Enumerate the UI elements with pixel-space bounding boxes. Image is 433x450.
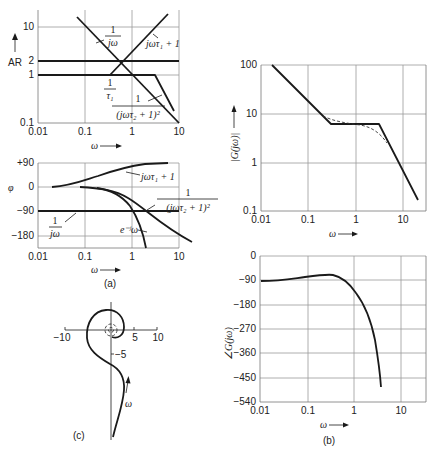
y-tick: −5 <box>115 349 127 360</box>
y-tick: +90 <box>17 157 34 168</box>
chart-c-nyquist: −10 5 10 −5 ω (c) <box>54 302 164 441</box>
label-second-order: (jωτ₂ + 1)² <box>166 202 210 214</box>
nyquist-curve <box>87 310 124 437</box>
x-tick: 0.1 <box>78 251 92 262</box>
y-axis-label: ∠G(jω) <box>223 327 235 360</box>
x-tick: 1 <box>351 405 357 416</box>
exact-magnitude-curve <box>323 116 387 143</box>
svg-text:1: 1 <box>108 77 113 88</box>
y-axis-label: φ <box>8 182 14 193</box>
x-tick: 0.01 <box>250 405 270 416</box>
arrow-up-icon <box>232 105 237 112</box>
arrow-up-icon <box>126 376 131 384</box>
x-tick: 10 <box>395 405 407 416</box>
y-tick: 1 <box>28 69 34 80</box>
svg-text:1: 1 <box>136 93 141 104</box>
x-tick: 1 <box>353 214 359 225</box>
label-jwt1-plus-1: jωτ₁ + 1 <box>139 171 175 182</box>
y-tick: 10 <box>23 21 35 32</box>
x-tick: −10 <box>54 332 71 343</box>
y-tick: 1 <box>251 157 257 168</box>
arrow-right-icon <box>115 268 121 273</box>
y-tick: −180 <box>11 230 34 241</box>
label-1-over-jw: jω <box>48 228 60 239</box>
label-1-over-jw: jω <box>106 37 118 48</box>
panel-label-a: (a) <box>104 278 116 289</box>
y-tick: 10 <box>246 108 258 119</box>
chart-a-phase: +90 0 −90 −180 φ 0.01 0.1 1 10 ω (a) jωτ… <box>8 157 218 289</box>
y-tick: 0 <box>28 181 34 192</box>
x-tick: 0.01 <box>251 214 271 225</box>
phase-curve <box>261 275 381 387</box>
chart-b-phase: 0 −90 −180 −270 −360 −450 −540 ∠G(jω) 0.… <box>223 250 426 446</box>
x-axis-label: ω <box>91 264 98 275</box>
y-tick: 2 <box>28 55 34 66</box>
label-e-to-minus-jw: e⁻ʲω <box>120 224 138 235</box>
y-tick: −360 <box>233 347 256 358</box>
label-tau1: τ₁ <box>106 90 113 101</box>
x-tick: 5 <box>132 332 138 343</box>
y-tick: 0 <box>250 250 256 261</box>
x-tick: 10 <box>152 332 164 343</box>
omega-direction-label: ω <box>125 398 132 409</box>
x-axis-label: ω <box>320 419 327 430</box>
label-second-order: (jωτ₂ + 1)² <box>116 109 160 121</box>
x-axis-label: ω <box>91 140 98 151</box>
y-axis-label: |G(jω)| <box>229 133 241 162</box>
y-tick: −270 <box>233 323 256 334</box>
y-tick: 100 <box>240 59 257 70</box>
x-tick: 1 <box>129 251 135 262</box>
arrow-right-icon <box>352 232 358 237</box>
y-tick: −450 <box>233 372 256 383</box>
x-tick: 1 <box>129 126 135 137</box>
y-axis-label: AR <box>8 57 22 68</box>
x-tick: 10 <box>397 214 409 225</box>
x-tick: 0.1 <box>78 126 92 137</box>
chart-a-magnitude: 10 2 1 0.1 AR 0.01 0.1 1 10 ω 1 jω jωτ₁ … <box>8 10 185 151</box>
asymptotic-magnitude-line <box>272 65 418 200</box>
y-tick: −90 <box>17 205 34 216</box>
svg-text:1: 1 <box>111 24 116 35</box>
x-axis-label: ω <box>329 228 336 239</box>
y-tick: −90 <box>239 274 256 285</box>
figure-canvas: 10 2 1 0.1 AR 0.01 0.1 1 10 ω 1 jω jωτ₁ … <box>0 0 433 450</box>
panel-label-c: (c) <box>73 430 85 441</box>
x-tick: 0.01 <box>28 251 48 262</box>
x-tick: 10 <box>173 126 185 137</box>
x-tick: 0.01 <box>28 126 48 137</box>
svg-text:1: 1 <box>186 187 191 198</box>
x-tick: 10 <box>173 251 185 262</box>
panel-label-b: (b) <box>323 435 335 446</box>
x-tick: 0.1 <box>301 405 315 416</box>
line-e-to-minus-jw <box>97 188 146 248</box>
x-tick: 0.1 <box>301 214 315 225</box>
y-tick: −180 <box>233 299 256 310</box>
chart-b-magnitude: 100 10 1 0.1 |G(jω)| 0.01 0.1 1 10 ω <box>229 59 426 239</box>
arrowhead-icon <box>12 33 18 40</box>
arrow-right-icon <box>116 144 122 149</box>
label-jwt1-plus-1: jωτ₁ + 1 <box>144 38 180 49</box>
arrow-right-icon <box>343 423 349 428</box>
line-1-over-jw <box>77 17 179 123</box>
svg-text:1: 1 <box>53 215 58 226</box>
